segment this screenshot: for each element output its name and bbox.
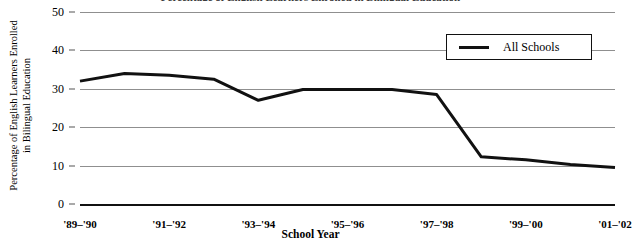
- chart-legend: All Schools: [446, 34, 592, 60]
- y-tick-label-50: 50: [0, 5, 64, 20]
- y-tick-mark-30: [69, 88, 75, 89]
- y-tick-mark-0: [69, 204, 75, 205]
- chart-title-cropped: Percentage of English Learners Enrolled …: [0, 0, 621, 1]
- y-tick-mark-50: [69, 12, 75, 13]
- series-line-all-schools: [80, 73, 615, 167]
- y-tick-label-10: 10: [0, 158, 64, 173]
- y-tick-mark-40: [69, 50, 75, 51]
- y-tick-label-40: 40: [0, 43, 64, 58]
- y-tick-mark-20: [69, 127, 75, 128]
- legend-label-all-schools: All Schools: [503, 40, 559, 55]
- y-tick-label-20: 20: [0, 120, 64, 135]
- y-tick-label-30: 30: [0, 81, 64, 96]
- y-tick-mark-10: [69, 165, 75, 166]
- x-axis-title: School Year: [0, 228, 621, 240]
- y-tick-label-0: 0: [0, 197, 64, 212]
- legend-swatch-all-schools: [459, 46, 489, 49]
- y-axis-title: Percentage of English Learners Enrolled …: [0, 0, 40, 210]
